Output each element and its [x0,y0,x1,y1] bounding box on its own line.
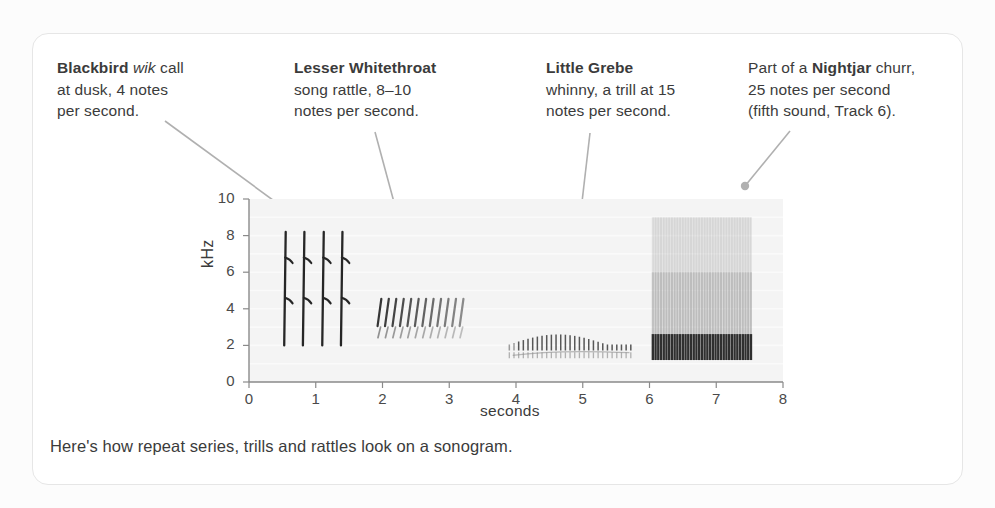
whitethroat-harmonic-5 [415,327,418,338]
blackbird-barb-3-1 [342,298,350,304]
figure-caption: Here's how repeat series, trills and rat… [50,437,513,456]
y-tick-label-4: 4 [209,299,235,316]
whitethroat-harmonic-7 [430,327,433,338]
whitethroat-note-7 [430,299,434,326]
y-axis-label: kHz [199,239,217,268]
whitethroat-note-9 [445,299,449,326]
whitethroat-note-11 [460,299,464,326]
whitethroat-note-0 [378,299,382,326]
whitethroat-note-4 [407,299,411,326]
whitethroat-harmonic-2 [393,327,396,338]
blackbird-barb-0-1 [285,298,293,304]
blackbird-note-3 [341,232,343,345]
x-tick-label-7: 7 [703,390,729,407]
whitethroat-note-2 [392,299,396,326]
blackbird-note-0 [284,232,286,345]
sonogram-figure: 0246810 012345678 kHz seconds [0,0,995,508]
x-tick-label-2: 2 [370,390,396,407]
whitethroat-note-3 [400,299,404,326]
nightjar-wash [653,217,751,334]
blackbird-note-1 [303,232,305,345]
x-tick-label-3: 3 [436,390,462,407]
spectrogram-traces [249,199,783,382]
x-tick-label-6: 6 [637,390,663,407]
whitethroat-harmonic-0 [378,327,381,338]
blackbird-barb-1-1 [304,298,312,304]
x-tick-label-0: 0 [236,390,262,407]
whitethroat-harmonic-4 [408,327,411,338]
blackbird-note-2 [322,232,324,345]
whitethroat-note-10 [452,299,456,326]
whitethroat-harmonic-11 [460,327,463,338]
whitethroat-harmonic-1 [385,327,388,338]
whitethroat-note-6 [422,299,426,326]
whitethroat-harmonic-3 [400,327,403,338]
whitethroat-note-5 [415,299,419,326]
x-tick-label-8: 8 [770,390,796,407]
whitethroat-note-1 [385,299,389,326]
y-tick-label-10: 10 [209,189,235,206]
page-background: Blackbird wik callat dusk, 4 notesper se… [0,0,995,508]
y-tick-label-2: 2 [209,335,235,352]
whitethroat-harmonic-10 [453,327,456,338]
whitethroat-harmonic-9 [445,327,448,338]
whitethroat-note-8 [437,299,441,326]
y-tick-label-0: 0 [209,372,235,389]
whitethroat-harmonic-8 [438,327,441,338]
whitethroat-harmonic-6 [423,327,426,338]
spectrogram-plot [249,199,783,382]
x-axis-label: seconds [480,402,540,420]
blackbird-barb-2-1 [323,298,331,304]
x-tick-label-5: 5 [570,390,596,407]
x-tick-label-1: 1 [303,390,329,407]
